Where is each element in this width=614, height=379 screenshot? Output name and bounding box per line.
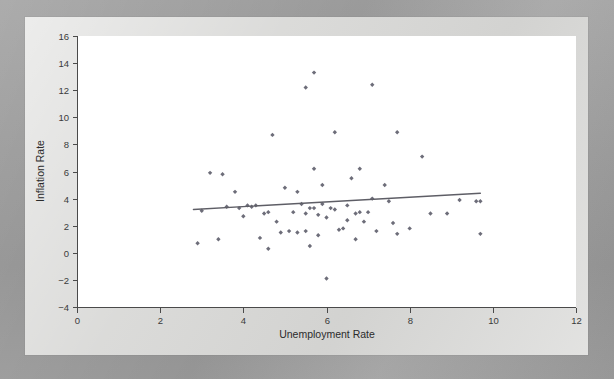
x-axis-title: Unemployment Rate: [279, 328, 375, 340]
y-axis-ticks: [73, 37, 77, 308]
plot-area-background: [77, 36, 576, 307]
y-tick-label: 0: [64, 248, 69, 259]
x-tick-label: 6: [325, 315, 330, 326]
y-tick-label: 14: [58, 58, 69, 69]
scatter-plot-figure: −4−20246810121416 024681012 Unemployment…: [0, 0, 614, 379]
y-axis-title: Inflation Rate: [34, 140, 46, 202]
x-axis-ticks: [78, 308, 577, 313]
y-tick-label: 6: [64, 167, 69, 178]
y-tick-label: 16: [58, 31, 69, 42]
y-tick-label: 12: [58, 85, 69, 96]
y-axis-tick-labels: −4−20246810121416: [58, 31, 69, 313]
x-tick-label: 0: [75, 315, 80, 326]
x-axis-tick-labels: 024681012: [75, 315, 582, 326]
y-tick-label: 8: [64, 139, 69, 150]
y-tick-label: −2: [58, 275, 69, 286]
plot-canvas: −4−20246810121416 024681012 Unemployment…: [0, 0, 614, 379]
x-tick-label: 10: [488, 315, 499, 326]
x-tick-label: 8: [408, 315, 413, 326]
y-tick-label: 2: [64, 221, 69, 232]
x-tick-label: 12: [571, 315, 582, 326]
y-tick-label: 4: [64, 194, 69, 205]
x-tick-label: 4: [241, 315, 246, 326]
x-tick-label: 2: [158, 315, 163, 326]
y-tick-label: 10: [58, 112, 69, 123]
y-tick-label: −4: [58, 302, 69, 313]
